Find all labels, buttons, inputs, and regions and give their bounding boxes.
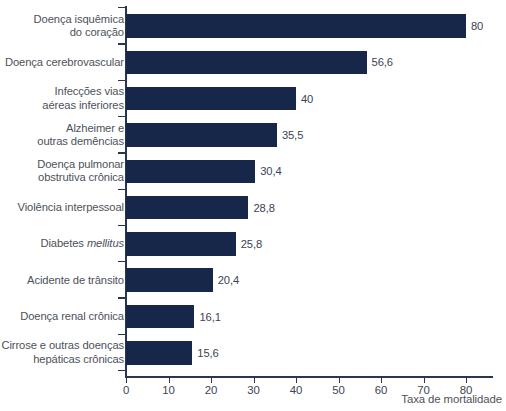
x-axis-tick — [381, 377, 382, 383]
x-axis-tick — [296, 377, 297, 383]
bar-value-label: 16,1 — [199, 305, 220, 329]
bar-category-label: Doença cerebrovascular — [4, 44, 124, 80]
bar-row: Doença isquêmicado coração80 — [0, 8, 506, 44]
x-axis-tick-label: 0 — [106, 384, 146, 396]
x-axis-tick-label: 10 — [149, 384, 189, 396]
bar-row: Doença cerebrovascular56,6 — [0, 44, 506, 80]
bar-category-label: Doença isquêmicado coração — [4, 8, 124, 44]
bar-category-label: Acidente de trânsito — [4, 262, 124, 298]
mortality-rate-bar-chart: Doença isquêmicado coração80Doença cereb… — [0, 0, 506, 411]
x-axis-tick — [126, 377, 127, 383]
y-axis-tick — [118, 334, 126, 335]
bar-category-label: Cirrose e outras doençashepáticas crônic… — [4, 335, 124, 371]
bar — [126, 123, 277, 147]
bar — [126, 341, 192, 365]
bar-row: Diabetes mellitus25,8 — [0, 226, 506, 262]
bar-row: Infecções viasaéreas inferiores40 — [0, 81, 506, 117]
bar-row: Cirrose e outras doençashepáticas crônic… — [0, 335, 506, 371]
y-axis-tick — [118, 43, 126, 44]
bar-category-label: Infecções viasaéreas inferiores — [4, 81, 124, 117]
bar-row: Doença renal crônica16,1 — [0, 298, 506, 334]
y-axis-tick — [118, 116, 126, 117]
bar-category-label: Alzheimer eoutras demências — [4, 117, 124, 153]
x-axis-tick — [424, 377, 425, 383]
bar-row: Acidente de trânsito20,4 — [0, 262, 506, 298]
bar-row: Doença pulmonarobstrutiva crônica30,4 — [0, 153, 506, 189]
y-axis-tick — [118, 152, 126, 153]
bar — [126, 305, 194, 329]
bar — [126, 232, 236, 256]
bar — [126, 160, 255, 184]
bar — [126, 14, 466, 38]
x-axis-tick — [254, 377, 255, 383]
x-axis-title: Taxa de mortalidade — [401, 393, 502, 405]
x-axis-tick — [211, 377, 212, 383]
bar-value-label: 15,6 — [197, 341, 218, 365]
bar-row: Alzheimer eoutras demências35,5 — [0, 117, 506, 153]
x-axis-tick-label: 20 — [191, 384, 231, 396]
bar-value-label: 40 — [301, 87, 313, 111]
bar — [126, 268, 213, 292]
bar-category-label: Doença renal crônica — [4, 298, 124, 334]
bar-row: Violência interpessoal28,8 — [0, 190, 506, 226]
bar — [126, 87, 296, 111]
y-axis-tick — [118, 80, 126, 81]
bar-value-label: 80 — [471, 14, 483, 38]
x-axis-tick-label: 60 — [361, 384, 401, 396]
y-axis-tick — [118, 225, 126, 226]
bar-value-label: 25,8 — [241, 232, 262, 256]
y-axis-tick — [118, 189, 126, 190]
y-axis-tick — [118, 297, 126, 298]
bar-value-label: 35,5 — [282, 123, 303, 147]
bar-value-label: 56,6 — [372, 51, 393, 75]
y-axis-tick — [118, 7, 126, 8]
y-axis-tick — [118, 261, 126, 262]
x-axis-tick-label: 30 — [234, 384, 274, 396]
bar — [126, 51, 367, 75]
bar-value-label: 20,4 — [218, 268, 239, 292]
x-axis-tick — [466, 377, 467, 383]
y-axis-tick — [118, 370, 126, 371]
bar — [126, 196, 248, 220]
bar-value-label: 30,4 — [260, 160, 281, 184]
x-axis-line — [125, 376, 493, 378]
bar-category-label: Diabetes mellitus — [4, 226, 124, 262]
bar-category-label: Doença pulmonarobstrutiva crônica — [4, 153, 124, 189]
bar-value-label: 28,8 — [253, 196, 274, 220]
x-axis-tick — [339, 377, 340, 383]
x-axis-tick-label: 50 — [319, 384, 359, 396]
bar-category-label: Violência interpessoal — [4, 190, 124, 226]
x-axis-tick-label: 40 — [276, 384, 316, 396]
x-axis-tick — [169, 377, 170, 383]
